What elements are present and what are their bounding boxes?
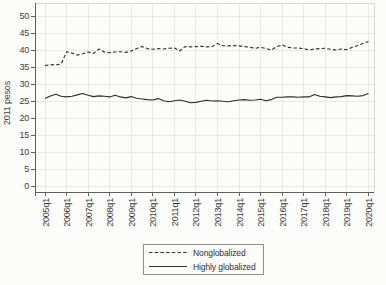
plot-frame (35, 3, 374, 192)
x-axis-tick-label: 2013q1 (213, 198, 223, 227)
x-axis-tick-label: 2008q1 (105, 198, 115, 227)
solid-line-sample (149, 265, 187, 268)
legend-label: Highly globalized (193, 262, 256, 272)
x-axis-tick-label: 2016q1 (278, 198, 288, 227)
legend-item-highly-globalized: Highly globalized (144, 260, 263, 273)
y-axis-tick-label: 20 (19, 113, 29, 123)
chart-figure: 051015202530354045502005q12006q12007q120… (0, 0, 386, 285)
x-axis-tick-label: 2017q1 (299, 198, 309, 227)
y-axis-tick-label: 0 (24, 181, 29, 191)
y-axis-tick-label: 10 (19, 147, 29, 157)
dashed-line-sample (149, 251, 187, 254)
y-axis-tick-label: 35 (19, 62, 29, 72)
x-axis-tick-label: 2011q1 (170, 198, 180, 226)
legend-label: Nonglobalized (193, 248, 246, 258)
x-axis-tick-label: 2012q1 (191, 198, 201, 227)
x-axis-tick-label: 2014q1 (235, 198, 245, 227)
y-axis-tick-label: 40 (19, 45, 29, 55)
x-axis-tick-label: 2019q1 (342, 198, 352, 227)
x-axis-tick-label: 2009q1 (127, 198, 137, 227)
y-axis-tick-label: 25 (19, 96, 29, 106)
y-axis-tick-label: 45 (19, 28, 29, 38)
x-axis-tick-label: 2005q1 (41, 198, 51, 227)
y-axis-tick-label: 15 (19, 130, 29, 140)
x-axis-tick-label: 2018q1 (321, 198, 331, 227)
plot-area: 051015202530354045502005q12006q12007q120… (0, 0, 386, 285)
series-line-nonglobalized (45, 42, 368, 66)
x-axis-tick-label: 2015q1 (256, 198, 266, 227)
x-axis-tick-label: 2007q1 (84, 198, 94, 227)
legend-item-nonglobalized: Nonglobalized (144, 246, 263, 259)
y-axis-tick-label: 50 (19, 11, 29, 21)
legend: NonglobalizedHighly globalized (143, 244, 264, 275)
y-axis-title: 2011 pesos (2, 80, 12, 125)
x-axis-tick-label: 2006q1 (62, 198, 72, 227)
x-axis-tick-label: 2020q1 (364, 198, 374, 227)
x-axis-tick-label: 2010q1 (148, 198, 158, 227)
y-axis-tick-label: 5 (24, 164, 29, 174)
y-axis-tick-label: 30 (19, 79, 29, 89)
